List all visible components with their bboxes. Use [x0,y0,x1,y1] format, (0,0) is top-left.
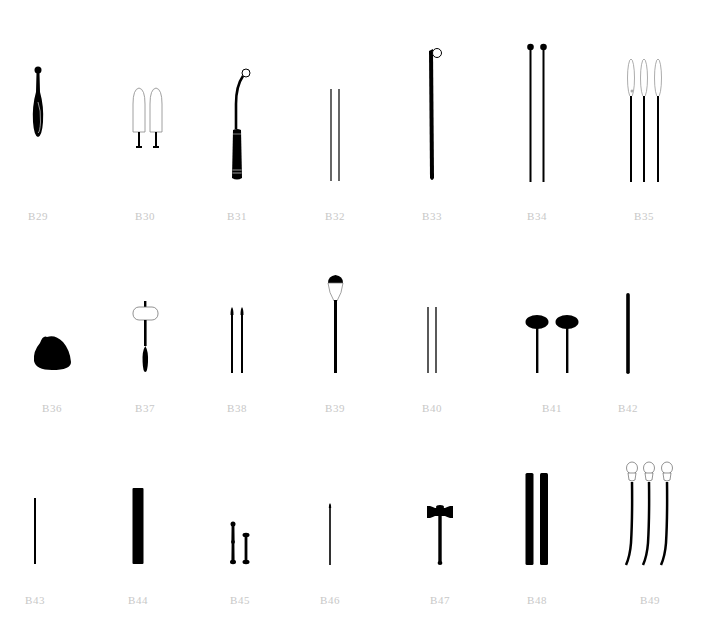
single-thin-rod-icon [0,428,90,588]
item-label: B29 [0,210,93,222]
item-b29: B29 [0,44,93,234]
item-label: B48 [482,594,592,606]
single-thick-rod-icon [573,236,683,396]
pair-of-wide-bars-icon [482,428,592,588]
soft-head-beater-icon [280,236,390,396]
item-b33: B33 [377,44,487,234]
pair-of-knobbed-sticks-icon [482,44,592,204]
pair-of-thin-rods-icon [377,236,487,396]
item-label: B43 [0,594,90,606]
pair-of-pointed-rods-icon [182,236,292,396]
item-label: B40 [377,402,487,414]
pair-of-thin-rods-icon [280,44,390,204]
item-b43: B43 [0,428,90,618]
item-label: B31 [182,210,292,222]
item-label: B35 [589,210,699,222]
item-b42: B42 [573,236,683,426]
item-label: B39 [280,402,390,414]
item-label: B44 [83,594,193,606]
item-b38: B38 [182,236,292,426]
item-label: B46 [275,594,385,606]
item-b46: B46 [275,428,385,618]
thin-pointed-rod-icon [275,428,385,588]
item-b47: B47 [385,428,495,618]
item-b34: B34 [482,44,592,234]
stick-with-loop-icon [377,44,487,204]
item-b32: B32 [280,44,390,234]
item-label: B42 [573,402,683,414]
item-b39: B39 [280,236,390,426]
item-label: B38 [182,402,292,414]
curved-hook-handle-icon [182,44,292,204]
item-b44: B44 [83,428,193,618]
three-needle-sticks-icon [589,44,699,204]
gavel-hammer-icon [385,428,495,588]
item-label: B34 [482,210,592,222]
item-b48: B48 [482,428,592,618]
item-label: B33 [377,210,487,222]
item-b31: B31 [182,44,292,234]
three-curved-beaters-icon [595,428,704,588]
item-b35: B35 [589,44,699,234]
item-b40: B40 [377,236,487,426]
item-label: B49 [595,594,704,606]
item-label: B47 [385,594,495,606]
tapered-handle-icon [0,44,93,204]
wide-bar-icon [83,428,193,588]
item-label: B32 [280,210,390,222]
item-b49: B49 [595,428,704,618]
